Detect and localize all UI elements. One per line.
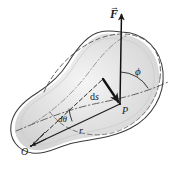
origin-o-label: O bbox=[21, 147, 28, 157]
point-p-marker bbox=[119, 103, 121, 105]
point-p-label: P bbox=[122, 106, 128, 116]
physics-diagram-figure: → F ϕ P ds dθ r O bbox=[0, 0, 178, 174]
radius-r-label: r bbox=[79, 126, 83, 136]
angle-dtheta-label: dθ bbox=[58, 115, 67, 124]
rigid-body-blob bbox=[11, 31, 163, 153]
force-vector-label: → F bbox=[110, 8, 118, 20]
displacement-ds-label: ds bbox=[90, 92, 99, 102]
vector-arrow-accent: → bbox=[110, 3, 118, 12]
point-o-marker bbox=[30, 145, 32, 147]
angle-phi-label: ϕ bbox=[135, 66, 141, 77]
ds-s-letter: s bbox=[95, 91, 99, 102]
blob-inner-shading bbox=[15, 34, 159, 150]
